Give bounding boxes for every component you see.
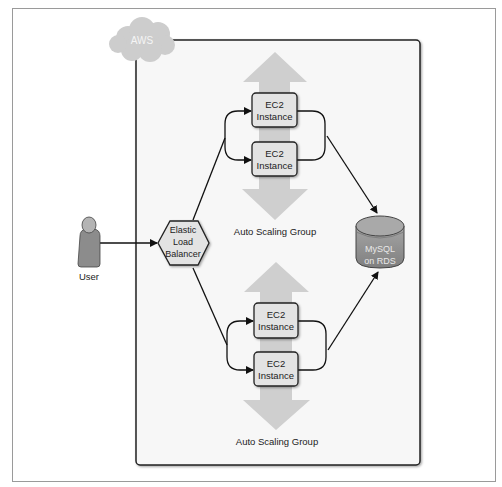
svg-text:Load: Load	[173, 237, 193, 247]
ec2-instance[interactable]: EC2 Instance	[254, 303, 298, 338]
svg-text:Instance: Instance	[258, 370, 294, 381]
auto-scaling-group-label: Auto Scaling Group	[236, 436, 318, 447]
architecture-diagram: AWS EC2 Instance EC2 Instance EC2 Instan…	[0, 0, 502, 487]
ec2-instance[interactable]: EC2 Instance	[252, 142, 297, 176]
user-icon[interactable]: User	[78, 217, 100, 282]
ec2-instance[interactable]: EC2 Instance	[252, 93, 297, 127]
svg-text:Elastic: Elastic	[170, 225, 197, 235]
svg-text:Balancer: Balancer	[165, 249, 201, 259]
aws-cloud-label: AWS	[131, 35, 154, 46]
ec2-instance[interactable]: EC2 Instance	[254, 352, 298, 386]
svg-text:Instance: Instance	[257, 160, 293, 171]
svg-text:EC2: EC2	[265, 99, 283, 110]
svg-text:EC2: EC2	[265, 148, 283, 159]
svg-text:on RDS: on RDS	[364, 256, 396, 266]
svg-text:EC2: EC2	[267, 358, 285, 369]
svg-text:Instance: Instance	[258, 321, 294, 332]
svg-text:MySQL: MySQL	[365, 244, 395, 254]
svg-text:Instance: Instance	[257, 111, 293, 122]
user-label: User	[79, 271, 99, 282]
svg-text:EC2: EC2	[267, 309, 285, 320]
mysql-rds-database-icon[interactable]: MySQL on RDS	[356, 216, 404, 268]
auto-scaling-group-label: Auto Scaling Group	[234, 226, 316, 237]
